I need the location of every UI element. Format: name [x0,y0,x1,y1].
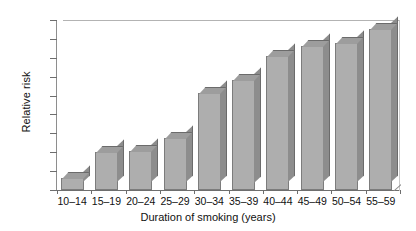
x-axis-title: Duration of smoking (years) [0,211,416,223]
x-axis-tick [331,190,332,194]
y-axis-tick [50,190,57,191]
bar [61,178,84,190]
x-axis-tick-label: 55–59 [358,195,404,207]
bar [369,29,392,190]
x-axis-tick [194,190,195,194]
x-axis-tick [126,190,127,194]
x-axis-tick [263,190,264,194]
x-axis-tick [57,190,58,194]
bar-side-face [357,30,364,182]
y-axis-tick [50,96,57,97]
bar [95,152,118,190]
y-axis-title: Relative risk [20,37,32,167]
x-axis-tick [91,190,92,194]
bar-side-face [220,80,227,182]
bar-side-face [254,67,261,182]
y-axis-tick [50,20,57,21]
bar [301,46,324,190]
bar-side-face [323,34,330,182]
bar [266,56,289,190]
bar [164,138,187,190]
y-axis-tick [50,58,57,59]
bar-chart: Relative risk 024681012141618 10–1415–19… [0,0,416,231]
y-axis-tick [50,133,57,134]
y-axis-tick [50,171,57,172]
y-axis-tick [50,39,57,40]
bar-side-face [391,17,398,182]
y-axis-tick [50,77,57,78]
y-axis-tick [50,152,57,153]
x-axis-tick [160,190,161,194]
y-axis-tick [50,114,57,115]
x-axis-tick [400,190,401,194]
x-axis-tick [297,190,298,194]
x-axis-tick [229,190,230,194]
x-axis-tick [366,190,367,194]
bar [129,151,152,190]
plot-area [57,20,400,190]
bar [232,80,255,191]
bar-side-face [288,43,295,182]
bar [335,43,358,190]
bar [198,93,221,190]
